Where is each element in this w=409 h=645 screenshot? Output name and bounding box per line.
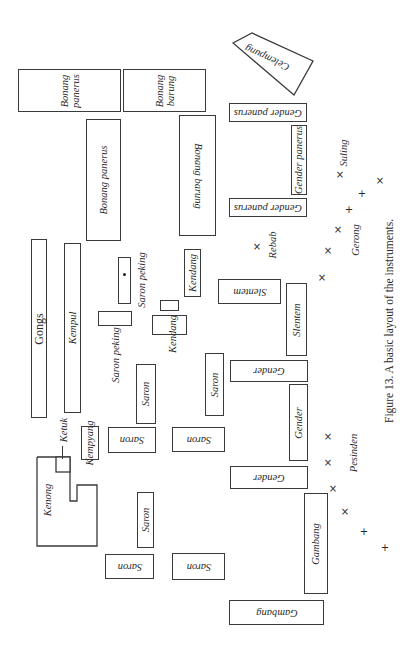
kenong-label: Kenong — [42, 484, 53, 517]
gambang-label-1: Gambang — [310, 523, 321, 564]
kendang-box-1: Kendang — [184, 249, 201, 297]
pesinden-marker-6: + — [381, 543, 389, 553]
gerong-marker-4: + — [345, 205, 353, 215]
saron-peking-label-1: Saron peking — [136, 252, 147, 307]
gongs-box: Gongs — [31, 239, 47, 418]
kempyang-box: Kempyang — [81, 426, 99, 460]
kempul-box: Kempul — [64, 243, 81, 413]
saron-box-5: Saron — [137, 492, 154, 548]
saron-box-6: Saron — [105, 554, 154, 579]
slentem-label-1: Slentem — [233, 286, 266, 297]
saron-label-4: Saron — [186, 434, 211, 445]
saron-box-1: Saron — [136, 364, 156, 424]
slentem-box-1: Slentem — [218, 279, 281, 304]
gender-box-3: Gender — [230, 466, 308, 489]
bonang-barung-box-top: Bonang barung — [123, 69, 206, 112]
saron-label-6: Saron — [117, 561, 142, 572]
kempul-label: Kempul — [67, 312, 78, 345]
gender-box-1: Gender — [230, 360, 308, 382]
gambang-label-2: Gambang — [256, 607, 297, 618]
pesinden-marker-5: + — [360, 527, 368, 537]
kendang-label-1: Kendang — [187, 254, 198, 292]
saron-label-2: Saron — [209, 372, 220, 397]
bonang-panerus-box: Bonang panerus — [86, 119, 121, 241]
bonang-barung-label: Bonang barung — [192, 143, 203, 209]
gerong-marker-1: × — [318, 273, 326, 283]
bonang-barung-box: Bonang barung — [179, 115, 216, 236]
suling-label: Suling — [338, 140, 349, 167]
saron-label-1: Saron — [140, 382, 151, 407]
gerong-marker-6: × — [376, 176, 384, 186]
kempyang-label: Kempyang — [84, 421, 95, 466]
pesinden-marker-1: × — [324, 432, 332, 442]
gambang-box-1: Gambang — [304, 493, 328, 594]
gender-label-1: Gender — [253, 365, 285, 376]
bonang-barung-label-top: Bonang barung — [153, 74, 175, 107]
bonang-panerus-box-top: Bonang panerus — [18, 69, 121, 112]
bonang-panerus-label-top: Bonang panerus — [58, 74, 80, 108]
gender-panerus-box-bottom: Gender panerus — [229, 198, 307, 217]
gongs-label: Gongs — [33, 313, 46, 344]
gender-panerus-label-bottom: Gender panerus — [234, 202, 302, 213]
figure-caption: Figure 13. A basic layout of the instrum… — [383, 219, 395, 423]
saron-label-3: Saron — [120, 434, 145, 445]
rebab-label: Rebab — [267, 232, 278, 259]
slentem-box-2: Slentem — [286, 283, 307, 356]
gender-panerus-box-mid: Gender panerus — [291, 125, 307, 195]
gender-box-2: Gender — [289, 384, 308, 461]
kendang-small-box — [160, 300, 179, 311]
saron-peking-box-1 — [118, 257, 131, 304]
saron-peking-label-2: Saron peking — [110, 327, 121, 382]
gerong-marker-5: + — [358, 189, 366, 199]
ketuk-leader-line — [62, 446, 63, 459]
slentem-label-2: Slentem — [291, 303, 302, 336]
saron-box-7: Saron — [172, 553, 225, 580]
pesinden-marker-3: × — [329, 484, 337, 494]
pesinden-marker-4: × — [341, 507, 349, 517]
saron-label-5: Saron — [140, 508, 151, 533]
saron-box-3: Saron — [108, 427, 156, 453]
gerong-label: Gerong — [350, 224, 361, 256]
ketuk-label: Ketuk — [58, 418, 69, 443]
suling-marker: × — [336, 170, 344, 180]
gerong-marker-3: × — [334, 225, 342, 235]
gender-panerus-label-top: Gender panerus — [234, 107, 302, 118]
kendang-label-2: Kendang — [167, 315, 178, 353]
saron-box-4: Saron — [172, 427, 225, 452]
saron-label-7: Saron — [186, 561, 211, 572]
saron-peking-box-2 — [98, 311, 132, 326]
bonang-panerus-label: Bonang panerus — [98, 145, 109, 214]
rebab-marker: × — [253, 242, 261, 252]
gambang-box-2: Gambang — [229, 600, 324, 625]
saron-box-2: Saron — [205, 353, 224, 416]
pesinden-label: Pesinden — [348, 434, 359, 473]
gender-panerus-label-mid: Gender panerus — [293, 126, 304, 194]
dot-marker — [123, 273, 126, 276]
gender-label-3: Gender — [253, 472, 285, 483]
gender-label-2: Gender — [293, 407, 304, 439]
pesinden-marker-2: × — [324, 458, 332, 468]
gerong-marker-2: × — [324, 246, 332, 256]
gender-panerus-box-top: Gender panerus — [229, 103, 307, 122]
